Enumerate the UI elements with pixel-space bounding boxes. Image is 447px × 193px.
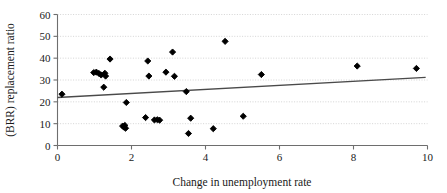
x-tick-label: 8 [351,151,357,163]
x-tick-label: 2 [129,151,135,163]
x-axis-title: Change in unemployment rate [173,176,312,189]
y-tick-label: 30 [40,74,52,86]
y-tick-label: 40 [40,52,52,64]
y-tick-label: 10 [40,118,52,130]
plot-canvas: 0246810 0102030405060 Change in unemploy… [0,0,447,193]
x-tick-label: 0 [55,151,61,163]
y-tick-label: 0 [45,140,51,152]
x-tick-label: 6 [277,151,283,163]
x-tick-label: 4 [203,151,209,163]
x-tick-label: 10 [422,151,434,163]
y-tick-label: 60 [40,9,52,21]
y-axis-title: (BRR) replacement ratio [4,23,17,137]
scatter-plot-figure: 0246810 0102030405060 Change in unemploy… [0,0,447,193]
y-tick-label: 50 [40,30,52,42]
y-tick-label: 20 [40,96,52,108]
